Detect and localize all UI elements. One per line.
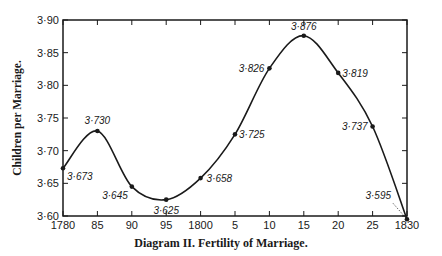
- data-value-label: 3·876: [291, 21, 317, 32]
- y-axis-label: Children per Marriage.: [11, 53, 23, 183]
- data-point: [336, 71, 341, 76]
- data-value-label: 3·725: [239, 129, 265, 140]
- data-value-label: 3·819: [342, 68, 368, 79]
- x-tick-label: 20: [332, 219, 344, 231]
- data-point: [370, 124, 375, 129]
- y-tick-label: 3·85: [37, 47, 59, 59]
- y-tick-label: 3·75: [37, 112, 59, 124]
- y-tick-label: 3·65: [37, 177, 59, 189]
- x-tick-label: 5: [232, 219, 238, 231]
- data-value-label: 3·625: [153, 205, 179, 216]
- data-point: [130, 184, 135, 189]
- data-value-label: 3·730: [85, 115, 111, 126]
- data-point: [267, 66, 272, 71]
- y-tick-label: 3·90: [37, 14, 59, 26]
- x-tick-label: 10: [263, 219, 275, 231]
- data-point: [61, 166, 66, 171]
- y-tick-label: 3·80: [37, 79, 59, 91]
- x-tick-label: 1800: [188, 219, 212, 231]
- data-point: [95, 129, 100, 134]
- x-tick-label: 1780: [51, 219, 75, 231]
- data-point: [233, 132, 238, 137]
- x-tick-label: 15: [298, 219, 310, 231]
- data-value-label: 3·826: [239, 63, 265, 74]
- data-value-label: 3·658: [207, 173, 233, 184]
- data-value-label: 3·645: [102, 190, 128, 201]
- plot-frame: [63, 20, 407, 216]
- plot-border: [63, 20, 407, 216]
- data-point: [164, 197, 169, 202]
- x-tick-label: 85: [91, 219, 103, 231]
- chart: 3·603·653·703·753·803·853·90 17808590951…: [0, 0, 442, 256]
- data-point: [198, 176, 203, 181]
- data-value-label: 3·673: [67, 171, 93, 182]
- x-tick-label: 90: [126, 219, 138, 231]
- data-value-label: 3·737: [342, 121, 368, 132]
- x-tick-label: 95: [160, 219, 172, 231]
- x-tick-label: 25: [366, 219, 378, 231]
- data-labels: 3·6733·7303·6453·6253·6583·7253·8263·876…: [67, 21, 407, 220]
- chart-caption: Diagram II. Fertility of Marriage.: [0, 236, 442, 251]
- y-tick-label: 3·70: [37, 145, 59, 157]
- data-value-label: 3·595: [365, 190, 391, 201]
- data-point: [302, 33, 307, 38]
